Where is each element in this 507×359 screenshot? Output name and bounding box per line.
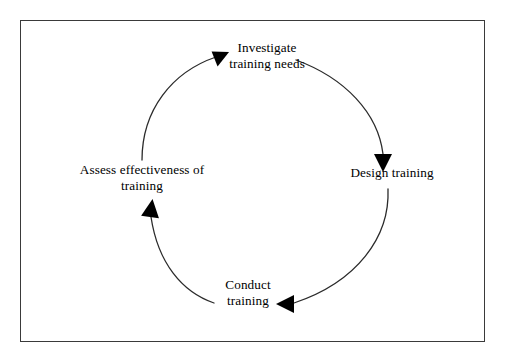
node-label-design: Design training bbox=[330, 165, 454, 181]
diagram-page: Investigate training needs Design traini… bbox=[0, 0, 507, 359]
node-label-conduct-line2: training bbox=[186, 293, 310, 309]
arc-investigate-to-design bbox=[296, 60, 383, 154]
node-label-assess: Assess effectiveness of training bbox=[62, 162, 222, 193]
node-label-design-line1: Design training bbox=[330, 165, 454, 181]
node-label-investigate-line1: Investigate bbox=[167, 40, 367, 56]
node-label-assess-line1: Assess effectiveness of bbox=[62, 162, 222, 178]
node-label-conduct-line1: Conduct bbox=[186, 277, 310, 293]
arc-assess-to-investigate bbox=[142, 57, 216, 160]
node-label-investigate-line2: training needs bbox=[167, 56, 367, 72]
arrowhead-to-assess bbox=[141, 198, 161, 218]
node-label-conduct: Conduct training bbox=[186, 277, 310, 308]
node-label-investigate: Investigate training needs bbox=[167, 40, 367, 71]
node-label-assess-line2: training bbox=[62, 178, 222, 194]
